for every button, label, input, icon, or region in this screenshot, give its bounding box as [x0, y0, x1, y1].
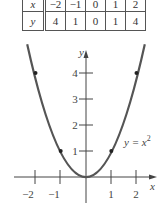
x-tick-label: −1 — [48, 188, 60, 200]
curve-label: y = x2 — [123, 134, 151, 148]
x-tick-label: −2 — [22, 188, 34, 200]
x-tick-label: 2 — [133, 188, 139, 200]
y-axis-label: y — [78, 46, 84, 58]
x-axis-arrow-icon — [149, 175, 157, 180]
y-tick-label: 3 — [72, 93, 78, 105]
y-tick-label: 2 — [72, 119, 78, 131]
x-tick-label: 1 — [108, 188, 114, 200]
y-axis-arrow-icon — [84, 50, 89, 58]
y-tick-label: 4 — [72, 67, 78, 79]
y-tick-label: 1 — [72, 145, 78, 157]
parabola-graph: −2 −1 1 2 1 2 3 4 y x y = x2 — [0, 0, 164, 214]
x-axis-label: x — [149, 180, 155, 192]
